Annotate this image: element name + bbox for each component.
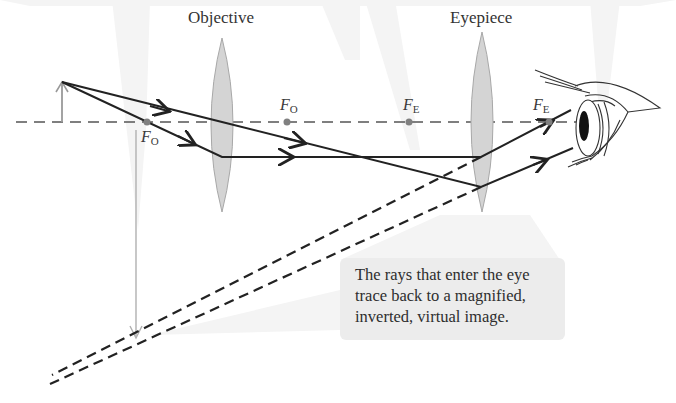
- focal-point-fe-right: [546, 119, 553, 126]
- explanation-callout: The rays that enter the eye trace back t…: [340, 258, 565, 340]
- focal-point-fo-left: [144, 119, 151, 126]
- callout-line-3: inverted, virtual image.: [355, 306, 555, 327]
- eyepiece-label: Eyepiece: [450, 8, 512, 28]
- objective-lens: [211, 38, 233, 212]
- callout-line-2: trace back to a magnified,: [355, 285, 555, 306]
- focal-point-fo-right: [284, 119, 291, 126]
- callout-line-1: The rays that enter the eye: [355, 264, 555, 285]
- background-beams: [0, 0, 676, 335]
- objective-label: Objective: [188, 8, 254, 28]
- diagram-canvas: [0, 0, 676, 403]
- focal-label-fo-right: FO: [280, 96, 298, 115]
- focal-point-fe-left: [406, 119, 413, 126]
- focal-label-fe-left: FE: [403, 96, 420, 115]
- focal-label-fe-right: FE: [533, 96, 550, 115]
- object-arrow: [56, 82, 68, 122]
- focal-label-fo-left: FO: [141, 128, 159, 147]
- microscope-ray-diagram: Objective Eyepiece FO FO FE FE The rays …: [0, 0, 676, 403]
